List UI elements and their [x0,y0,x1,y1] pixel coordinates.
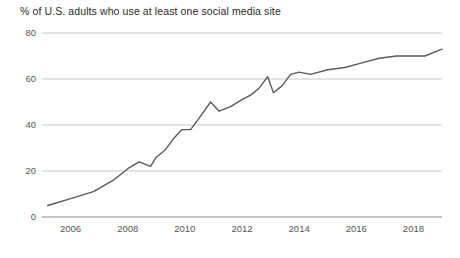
x-tick-label: 2014 [279,223,319,234]
x-tick-label: 2010 [165,223,205,234]
chart-plot-area [0,0,460,258]
x-tick-label: 2008 [108,223,148,234]
y-tick-label: 60 [10,73,36,84]
y-tick-label: 0 [10,211,36,222]
data-series-line [48,49,442,205]
x-tick-label: 2012 [222,223,262,234]
chart-container: % of U.S. adults who use at least one so… [0,0,460,258]
x-tick-label: 2016 [336,223,376,234]
series-polyline [48,49,442,205]
x-tick-label: 2018 [393,223,433,234]
y-tick-label: 80 [10,27,36,38]
x-tick-label: 2006 [51,223,91,234]
gridlines [42,33,442,171]
y-tick-label: 40 [10,119,36,130]
y-tick-label: 20 [10,165,36,176]
